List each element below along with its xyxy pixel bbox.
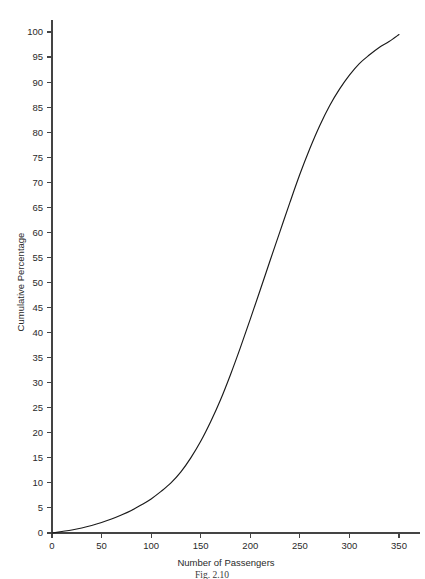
y-tick-label: 15	[32, 452, 43, 463]
y-tick-label: 95	[32, 51, 43, 62]
x-tick-label: 200	[242, 540, 258, 551]
y-tick-label: 0	[38, 527, 43, 538]
y-tick-label: 25	[32, 402, 43, 413]
y-axis-title: Cumulative Percentage	[15, 233, 26, 332]
y-tick-label: 45	[32, 302, 43, 313]
y-tick-label: 50	[32, 277, 43, 288]
x-tick-label: 100	[143, 540, 159, 551]
y-tick-label: 100	[27, 26, 43, 37]
y-tick-label: 30	[32, 377, 43, 388]
y-tick-label: 80	[32, 127, 43, 138]
y-tick-label: 85	[32, 102, 43, 113]
y-tick-label: 60	[32, 227, 43, 238]
y-tick-label: 20	[32, 427, 43, 438]
y-tick-label: 5	[38, 502, 43, 513]
y-tick-label: 75	[32, 152, 43, 163]
x-axis-title: Number of Passengers	[177, 557, 274, 568]
x-tick-label: 50	[96, 540, 107, 551]
y-tick-label: 90	[32, 77, 43, 88]
x-tick-label: 300	[341, 540, 357, 551]
y-tick-label: 65	[32, 202, 43, 213]
x-tick-label: 250	[292, 540, 308, 551]
figure-container: 0 5 10 15 20 25 30 35 40 45 50 55 60 65 …	[0, 0, 425, 579]
chart-background	[0, 0, 425, 579]
y-tick-label: 70	[32, 177, 43, 188]
y-tick-label: 35	[32, 352, 43, 363]
y-tick-label: 10	[32, 477, 43, 488]
x-tick-label: 150	[193, 540, 209, 551]
y-tick-label: 55	[32, 252, 43, 263]
figure-caption: Fig. 2.10	[195, 570, 229, 579]
x-tick-label: 0	[49, 540, 54, 551]
x-tick-label: 350	[391, 540, 407, 551]
y-tick-label: 40	[32, 327, 43, 338]
y-axis-ticks	[47, 32, 52, 533]
cumulative-percentage-chart: 0 5 10 15 20 25 30 35 40 45 50 55 60 65 …	[0, 0, 425, 579]
